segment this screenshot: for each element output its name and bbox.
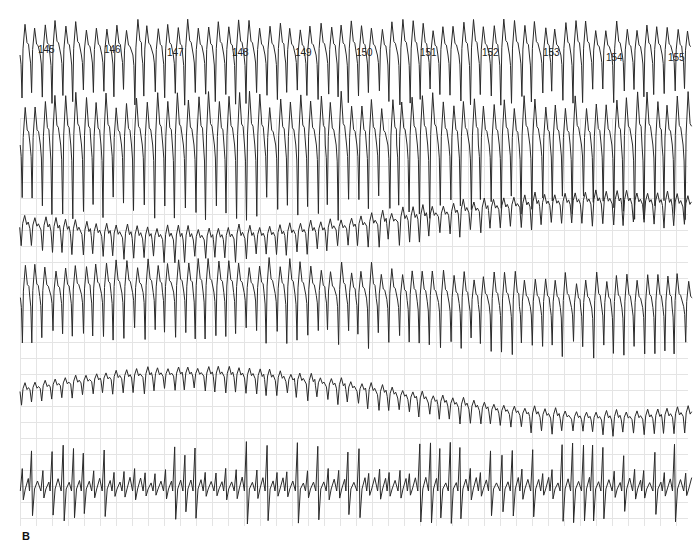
beat-number-label: 151 (420, 47, 437, 58)
ecg-traces (0, 0, 700, 548)
lead-2-trace (20, 91, 691, 220)
beat-number-label: 153 (543, 47, 560, 58)
beat-number-label: 155 (668, 52, 685, 63)
beat-number-label: 145 (38, 44, 55, 55)
beat-number-label: 150 (356, 47, 373, 58)
beat-number-label: 149 (295, 47, 312, 58)
beat-number-label: 147 (167, 47, 184, 58)
panel-label: B (22, 530, 30, 542)
lead-1-trace (20, 19, 691, 105)
lead-5-trace (20, 366, 692, 436)
lead-6-trace (20, 442, 691, 524)
beat-number-label: 152 (482, 47, 499, 58)
beat-number-label: 146 (104, 44, 121, 55)
lead-3-trace (20, 190, 692, 263)
beat-number-label: 154 (606, 52, 623, 63)
beat-number-label: 148 (232, 47, 249, 58)
lead-4-trace (20, 258, 692, 359)
